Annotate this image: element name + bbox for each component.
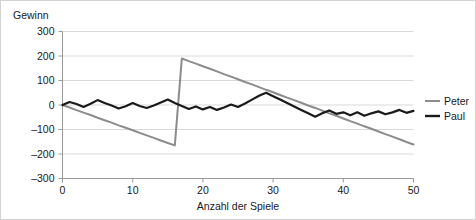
y-axis-tick-labels: 3002001000–100–200–300 — [31, 25, 55, 184]
legend: PeterPaul — [425, 95, 470, 122]
x-axis-tick-label: 10 — [127, 184, 139, 196]
x-axis-tick-label: 50 — [408, 184, 420, 196]
y-axis-title: Gewinn — [13, 9, 49, 21]
y-axis-tick-label: 200 — [37, 50, 55, 62]
legend-label-peter: Peter — [444, 95, 470, 107]
x-axis-tick-label: 40 — [337, 184, 349, 196]
line-chart: 3002001000–100–200–300 01020304050 Gewin… — [1, 1, 476, 220]
legend-label-paul: Paul — [444, 110, 465, 122]
x-axis-tick-label: 30 — [267, 184, 279, 196]
y-axis-tick-label: 100 — [37, 74, 55, 86]
y-axis-tick-label: 0 — [49, 99, 55, 111]
y-axis-tick-label: –300 — [31, 172, 55, 184]
x-axis-tick-label: 0 — [60, 184, 66, 196]
series-line-peter — [63, 58, 414, 145]
gridlines-group — [63, 32, 414, 179]
y-axis-tick-label: 300 — [37, 25, 55, 37]
y-axis-tick-label: –100 — [31, 123, 55, 135]
y-axis-tick-label: –200 — [31, 148, 55, 160]
x-axis-tick-labels: 01020304050 — [60, 184, 420, 196]
data-series-group — [63, 58, 414, 145]
chart-container: 3002001000–100–200–300 01020304050 Gewin… — [0, 0, 476, 220]
x-axis-tick-label: 20 — [197, 184, 209, 196]
x-axis-title: Anzahl der Spiele — [197, 200, 279, 212]
